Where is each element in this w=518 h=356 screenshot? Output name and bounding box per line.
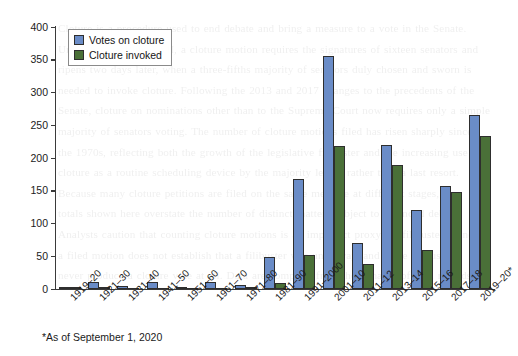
x-axis-label-cell: 1951–60 [172,292,201,350]
bar-group [319,27,348,289]
y-axis-tick [51,289,55,290]
bar-group [348,27,377,289]
bar-votes-on-cloture [381,145,392,288]
y-axis-tick-label: 0 [42,283,48,295]
bar-group [260,27,289,289]
y-axis-tick-label: 250 [30,119,48,131]
x-axis-label-cell: 2015–16 [407,292,436,350]
bar-votes-on-cloture [59,287,70,289]
y-axis-tick-label: 400 [30,21,48,33]
x-axis-label-cell: 2019–20* [466,292,495,350]
bar-group [202,27,231,289]
bar-group [407,27,436,289]
legend-swatch-invoked-icon [74,50,84,60]
bar-group [436,27,465,289]
y-axis-tick-label: 350 [30,53,48,65]
y-axis-tick-label: 50 [36,250,48,262]
bar-cloture-invoked [392,165,403,288]
y-axis-tick-label: 150 [30,184,48,196]
legend-item-votes-on-cloture: Votes on cloture [74,34,164,46]
x-axis-label-cell: 1971–80 [231,292,260,350]
y-axis-tick-label: 100 [30,217,48,229]
legend-label-invoked: Cloture invoked [89,49,162,61]
x-axis-label-cell: 1991–2000 [290,292,319,350]
x-axis-label-cell: 2017–18 [436,292,465,350]
x-axis-label-cell: 2013–14 [378,292,407,350]
bar-group [172,27,201,289]
bar-group [466,27,495,289]
cloture-votes-bar-chart: 050100150200250300350400 1919–201921–301… [0,0,518,356]
chart-legend: Votes on cloture Cloture invoked [68,29,172,66]
bar-group [378,27,407,289]
bar-group [290,27,319,289]
legend-swatch-votes-icon [74,35,84,45]
y-axis-tick-label: 300 [30,86,48,98]
legend-label-votes: Votes on cloture [89,34,164,46]
legend-item-cloture-invoked: Cloture invoked [74,49,164,61]
bar-group [231,27,260,289]
bar-cloture-invoked [480,136,491,289]
x-axis-label-cell: 2001–10 [319,292,348,350]
chart-footnote: *As of September 1, 2020 [42,331,162,343]
bar-votes-on-cloture [469,115,480,289]
y-axis-tick-label: 200 [30,152,48,164]
bar-votes-on-cloture [323,56,334,289]
x-axis-label-cell: 2011–12 [348,292,377,350]
x-axis-label-cell: 1961–70 [202,292,231,350]
x-axis-label-cell: 1981–90 [260,292,289,350]
